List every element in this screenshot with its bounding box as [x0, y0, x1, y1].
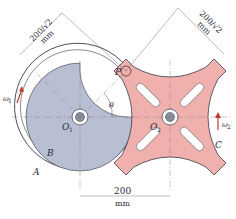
label-theta: θ: [109, 101, 114, 110]
label-b: B: [46, 148, 54, 158]
label-omega2-sub: 2: [227, 123, 231, 130]
label-o2-sub: 2: [157, 126, 161, 133]
label-a: A: [32, 167, 40, 177]
label-pin-p: P: [114, 67, 122, 77]
label-o1-sub: 1: [69, 126, 73, 133]
label-omega1-sub: 1: [8, 97, 12, 104]
label-c: C: [215, 140, 222, 150]
diagram-canvas: P θ O 1 O 2 A B C ω 1 ω 2 200/√2 mm 200/…: [0, 0, 236, 219]
dim-center-value: 200: [114, 186, 131, 196]
dim-center-unit: mm: [115, 199, 131, 208]
geneva-mechanism-diagram: P θ O 1 O 2 A B C ω 1 ω 2 200/√2 mm 200/…: [0, 0, 236, 219]
